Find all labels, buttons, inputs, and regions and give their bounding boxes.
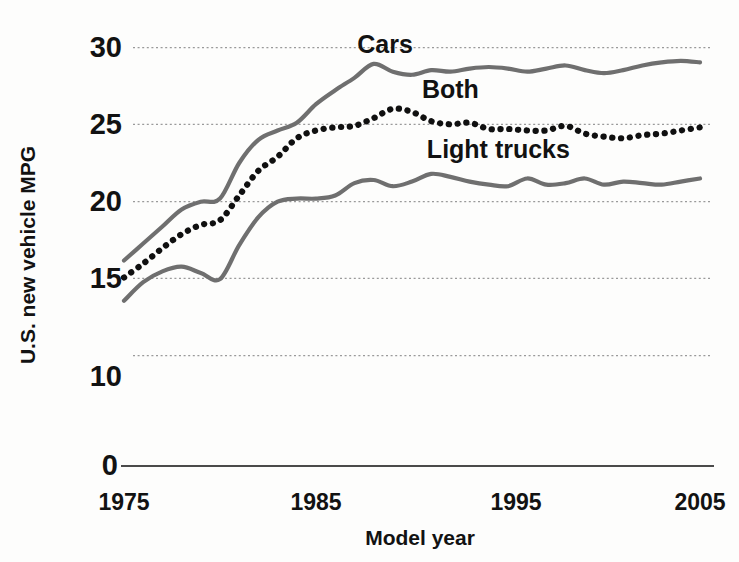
- y-tick-label-15: 15: [90, 262, 122, 294]
- series-label-both: Both: [422, 75, 479, 103]
- series-line-cars: [124, 61, 700, 261]
- x-axis-tick-labels: 1975 1985 1995 2005: [98, 489, 725, 515]
- series-annotations: Cars Both Light trucks: [357, 30, 570, 163]
- y-axis-title: U.S. new vehicle MPG: [16, 146, 39, 364]
- series-line-light-trucks: [124, 174, 700, 301]
- y-tick-label-10: 10: [90, 360, 122, 392]
- x-tick-label-1985: 1985: [290, 489, 341, 515]
- x-axis-title: Model year: [365, 526, 475, 549]
- line-chart-plot: 30 25 20 15 10 0 1975 1985 1995 2005 Mod…: [0, 0, 739, 562]
- y-axis-tick-labels: 30 25 20 15 10 0: [90, 31, 122, 481]
- series-paths: [124, 61, 700, 301]
- y-tick-label-30: 30: [90, 31, 122, 63]
- series-label-cars: Cars: [357, 30, 413, 58]
- x-tick-label-1995: 1995: [490, 489, 541, 515]
- series-line-both: [124, 109, 700, 278]
- x-tick-label-2005: 2005: [674, 489, 725, 515]
- y-tick-label-20: 20: [90, 185, 122, 217]
- x-tick-label-1975: 1975: [98, 489, 149, 515]
- chart-figure: 30 25 20 15 10 0 1975 1985 1995 2005 Mod…: [0, 0, 739, 562]
- series-label-light-trucks: Light trucks: [427, 135, 570, 163]
- y-tick-label-0: 0: [102, 449, 118, 481]
- y-tick-label-25: 25: [90, 108, 122, 140]
